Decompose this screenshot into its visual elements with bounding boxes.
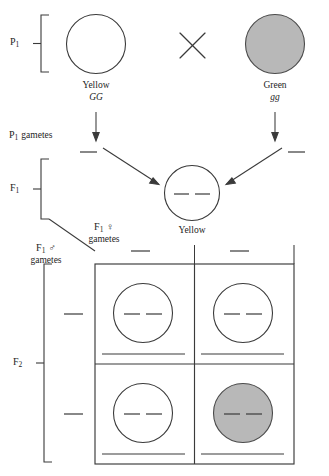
f1-male-gametes-word: gametes xyxy=(30,255,61,265)
figure-vector-layer xyxy=(0,0,329,476)
f2-generation-label: F2 xyxy=(13,357,22,369)
punnett-cell-circle xyxy=(114,284,173,343)
f1-offspring-phenotype-label: Yellow xyxy=(178,225,205,235)
p1-left-phenotype-label: Yellow xyxy=(82,80,109,90)
p1-gametes-subscript: 1 xyxy=(15,133,19,142)
f2-subscript: 2 xyxy=(19,360,23,369)
p1-gametes-word: gametes xyxy=(21,130,52,140)
f1-subscript: 1 xyxy=(16,186,20,195)
f1-female-gametes-label: F1♀ gametes xyxy=(88,222,119,244)
female-symbol-icon: ♀ xyxy=(106,221,114,232)
f1-female-gen-subscript: 1 xyxy=(100,225,104,234)
p1-generation-label: P1 xyxy=(10,37,19,49)
f1-male-gametes-label: F1♂ gametes xyxy=(30,243,61,265)
punnett-cell-r0c0 xyxy=(102,284,185,355)
f1-offspring-circle xyxy=(165,166,220,221)
f2-bracket xyxy=(36,264,52,462)
f1-female-gametes-word: gametes xyxy=(88,234,119,244)
p1-right-genotype-label: gg xyxy=(270,92,280,102)
f1-female-gametes-line1: F1♀ xyxy=(88,222,119,234)
f1-bracket xyxy=(33,159,49,219)
punnett-cell-circle xyxy=(114,384,173,443)
punnett-row-header-blanks xyxy=(64,314,83,414)
p1-right-parent-circle xyxy=(246,15,305,74)
f1-generation-label: F1 xyxy=(10,183,19,195)
punnett-cell-circle xyxy=(214,284,273,343)
p1-bracket xyxy=(33,15,49,72)
male-symbol-icon: ♂ xyxy=(48,242,56,253)
p1-subscript: 1 xyxy=(16,40,20,49)
p1-left-genotype-label: GG xyxy=(89,92,103,102)
punnett-cell-circle xyxy=(214,384,273,443)
punnett-cell-r1c1 xyxy=(201,384,284,455)
p1-right-phenotype-label: Green xyxy=(263,80,286,90)
p1-to-gamete-arrows xyxy=(93,112,278,141)
p1-left-parent-circle xyxy=(67,15,126,74)
monohybrid-cross-figure: P1 Yellow GG Green gg P1gametes F1 Yello… xyxy=(0,0,329,476)
punnett-cell-r0c1 xyxy=(201,284,284,355)
f1-male-gen-subscript: 1 xyxy=(42,246,46,255)
punnett-cell-r1c0 xyxy=(102,384,185,455)
p1-gametes-label: P1gametes xyxy=(9,130,52,142)
f1-male-gametes-line1: F1♂ xyxy=(30,243,61,255)
cross-symbol-icon xyxy=(180,33,205,58)
